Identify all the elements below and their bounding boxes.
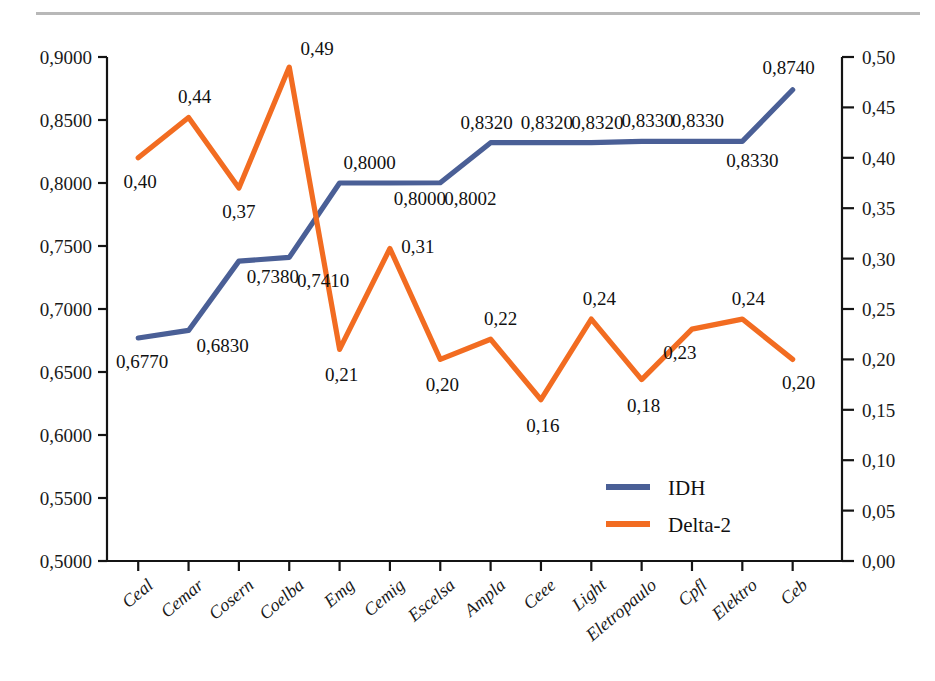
right-axis-tick-label: 0,35 — [862, 198, 895, 219]
data-point-label: 0,8320 — [571, 112, 623, 133]
x-axis-category-label: Ceb — [776, 575, 811, 609]
data-point-label: 0,7380 — [247, 266, 299, 287]
x-axis: CealCemarCosernCoelbaEmgCemigEscelsaAmpl… — [107, 561, 842, 646]
data-point-label: 0,44 — [178, 86, 212, 107]
left-axis-tick-label: 0,5500 — [40, 488, 92, 509]
x-axis-category-label: Cemig — [360, 575, 409, 621]
line-chart: 0,90000,85000,80000,75000,70000,65000,60… — [0, 0, 935, 681]
legend-label-idh: IDH — [668, 476, 705, 500]
data-point-label: 0,40 — [124, 171, 157, 192]
left-axis-tick-label: 0,8500 — [40, 110, 92, 131]
left-axis-tick-label: 0,6500 — [40, 362, 92, 383]
data-point-label: 0,6830 — [196, 335, 248, 356]
data-point-label: 0,8000 — [343, 152, 395, 173]
data-point-label: 0,8740 — [763, 57, 815, 78]
x-axis-category-label: Cpfl — [674, 575, 711, 610]
right-axis-tick-label: 0,25 — [862, 299, 895, 320]
chart-canvas: 0,90000,85000,80000,75000,70000,65000,60… — [0, 0, 935, 681]
right-axis-tick-label: 0,40 — [862, 148, 895, 169]
data-point-label: 0,8000 — [394, 188, 446, 209]
data-point-label: 0,6770 — [116, 351, 168, 372]
x-axis-category-label: Light — [567, 574, 611, 615]
x-axis-category-label: Ceal — [118, 575, 157, 612]
chart-page: 0,90000,85000,80000,75000,70000,65000,60… — [0, 0, 935, 681]
right-axis-tick-label: 0,05 — [862, 501, 895, 522]
x-axis-category-label: Elektro — [707, 575, 761, 625]
data-point-label: 0,49 — [301, 38, 334, 59]
legend-label-delta-2: Delta-2 — [668, 513, 731, 537]
x-axis-category-label: Ampla — [460, 575, 510, 621]
x-axis-category-label: Escelsa — [403, 575, 459, 626]
right-axis-tick-label: 0,15 — [862, 400, 895, 421]
legend: IDHDelta-2 — [606, 476, 731, 537]
data-point-label: 0,24 — [583, 288, 617, 309]
left-axis-tick-label: 0,7500 — [40, 236, 92, 257]
value-labels-delta-2: 0,400,440,370,490,210,310,200,220,160,24… — [124, 38, 816, 436]
x-axis-category-label: Cemar — [157, 574, 208, 621]
right-axis-tick-label: 0,30 — [862, 249, 895, 270]
right-axis-tick-label: 0,50 — [862, 47, 895, 68]
data-point-label: 0,8330 — [726, 150, 778, 171]
data-point-label: 0,20 — [782, 372, 815, 393]
data-point-label: 0,22 — [484, 308, 517, 329]
data-point-label: 0,16 — [526, 415, 559, 436]
data-point-label: 0,23 — [663, 342, 696, 363]
x-axis-category-label: Ceee — [519, 575, 559, 613]
left-axis-tick-label: 0,5000 — [40, 551, 92, 572]
right-axis-tick-label: 0,45 — [862, 97, 895, 118]
x-axis-category-label: Emg — [319, 575, 358, 612]
left-axis-tick-label: 0,6000 — [40, 425, 92, 446]
data-point-label: 0,8002 — [444, 188, 496, 209]
data-point-label: 0,8330 — [672, 110, 724, 131]
data-point-label: 0,7410 — [297, 270, 349, 291]
data-point-label: 0,8320 — [521, 112, 573, 133]
data-point-label: 0,8320 — [460, 112, 512, 133]
data-point-label: 0,21 — [325, 364, 358, 385]
right-axis: 0,500,450,400,350,300,250,200,150,100,05… — [842, 47, 895, 572]
data-point-label: 0,18 — [627, 395, 660, 416]
left-axis-tick-label: 0,8000 — [40, 173, 92, 194]
right-axis-tick-label: 0,00 — [862, 551, 895, 572]
x-axis-category-label: Coelba — [255, 575, 308, 624]
right-axis-tick-label: 0,10 — [862, 450, 895, 471]
data-point-label: 0,37 — [222, 201, 255, 222]
left-axis-tick-label: 0,9000 — [40, 47, 92, 68]
right-axis-tick-label: 0,20 — [862, 349, 895, 370]
left-axis-tick-label: 0,7000 — [40, 299, 92, 320]
data-point-label: 0,31 — [401, 236, 434, 257]
data-point-label: 0,8330 — [622, 110, 674, 131]
left-axis: 0,90000,85000,80000,75000,70000,65000,60… — [40, 47, 107, 572]
data-point-label: 0,20 — [426, 374, 459, 395]
data-point-label: 0,24 — [732, 288, 766, 309]
x-axis-category-label: Cosern — [205, 575, 258, 624]
